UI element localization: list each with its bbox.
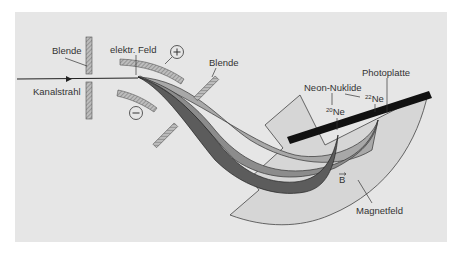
- blende-right-upper: [194, 76, 219, 101]
- label-ne20: 20Ne: [326, 106, 345, 117]
- label-kanalstrahl: Kanalstrahl: [33, 86, 81, 97]
- blende-right-leader: [212, 68, 216, 77]
- blende-right-lower: [153, 123, 178, 148]
- label-elektr-feld: elektr. Feld: [110, 44, 156, 55]
- label-b-field: B: [339, 174, 345, 185]
- mass-spectrograph-diagram: Blende elektr. Feld Kanalstrahl Blende P…: [0, 0, 470, 264]
- label-magnetfeld: Magnetfeld: [356, 205, 403, 216]
- blende-left-lower: [86, 82, 92, 119]
- blende-left-upper: [86, 37, 92, 74]
- label-photoplatte: Photoplatte: [362, 67, 410, 78]
- beam-arrow-icon: [66, 76, 72, 82]
- label-blende-right: Blende: [209, 57, 239, 68]
- ne22-leader-top: [345, 94, 360, 97]
- label-blende-left: Blende: [52, 45, 82, 56]
- kanalstrahl-line: [17, 78, 138, 79]
- label-neon-nuklide: Neon-Nuklide: [304, 82, 362, 93]
- blende-left-leader: [65, 58, 87, 66]
- label-ne22: 22Ne: [365, 93, 384, 104]
